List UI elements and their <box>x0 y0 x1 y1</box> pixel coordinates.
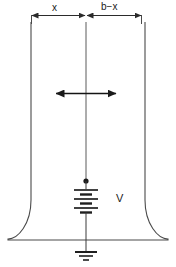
voltage-source-label: V <box>116 193 123 204</box>
dimension-label-x: x <box>52 3 57 13</box>
ground-symbol <box>75 252 97 260</box>
dimension-label-b-minus-x: b−x <box>101 2 117 12</box>
figure-canvas: x b−x V <box>0 0 176 267</box>
diagram-svg <box>0 0 176 267</box>
battery-symbol <box>74 190 98 213</box>
